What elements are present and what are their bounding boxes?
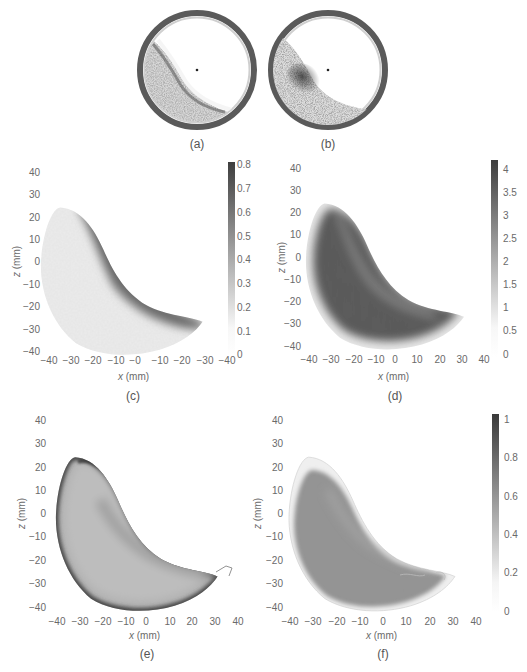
xtick: 40 [469,355,499,365]
ytick: −20 [271,297,301,307]
panel-c-xlabel: x (mm) [118,371,149,382]
cbtick: 3 [503,211,509,221]
cbtick: 0.5 [503,326,517,336]
panel-c-ylabel: z (mm) [11,240,22,284]
cbtick: 2.5 [503,234,517,244]
cbtick: 0.4 [237,255,251,265]
cbtick: 0 [504,607,510,617]
cbtick: 3.5 [503,188,517,198]
ytick: −20 [10,302,40,312]
ytick: 30 [253,439,283,449]
panel-f-ylabel: z (mm) [252,492,263,536]
cbtick: 0.6 [504,492,518,502]
cbtick: 0.1 [237,327,251,337]
ytick: −40 [253,603,283,613]
xtick: 40 [223,617,253,627]
cbtick: 0.8 [504,453,518,463]
ytick: −30 [10,325,40,335]
ytick: −40 [16,603,46,613]
ytick: 40 [10,168,40,178]
ytick: 40 [16,416,46,426]
cbtick: 4 [503,165,509,175]
panel-d-label: (d) [375,389,415,403]
cbtick: 1 [504,415,510,425]
colorbar-f [0,0,527,672]
cbtick: 0.7 [237,184,251,194]
panel-c-label: (c) [113,389,153,403]
ytick: −30 [271,319,301,329]
panel-e-label: (e) [127,647,167,661]
ytick: 20 [271,208,301,218]
cbtick: 0.4 [504,530,518,540]
ytick: 40 [271,164,301,174]
ytick: 30 [271,186,301,196]
ytick: −40 [271,342,301,352]
cbtick: 0.2 [504,568,518,578]
cbtick: 2 [503,257,509,267]
cbtick: 0.6 [237,208,251,218]
cbtick: 0.3 [237,279,251,289]
panel-e-xlabel: x (mm) [129,630,160,641]
ytick: 20 [253,463,283,473]
ytick: 20 [10,213,40,223]
cbtick: 0 [503,350,509,360]
panel-f-label: (f) [363,647,403,661]
cbtick: 0.5 [237,232,251,242]
ytick: −20 [253,556,283,566]
xtick: 40 [461,617,491,627]
ytick: 40 [253,416,283,426]
panel-d-xlabel: x (mm) [378,371,409,382]
ytick: −30 [253,579,283,589]
cbtick: 1.5 [503,280,517,290]
cbtick: 1 [503,303,509,313]
ytick: 20 [16,463,46,473]
cbtick: 0 [237,350,243,360]
panel-f-xlabel: x (mm) [366,630,397,641]
ytick: 30 [16,439,46,449]
ytick: −30 [16,579,46,589]
ytick: 30 [10,190,40,200]
cbtick: 0.2 [237,303,251,313]
cbtick: 0.8 [237,160,251,170]
panel-e-ylabel: z (mm) [16,492,27,536]
ytick: −20 [16,556,46,566]
panel-d-ylabel: z (mm) [276,236,287,280]
